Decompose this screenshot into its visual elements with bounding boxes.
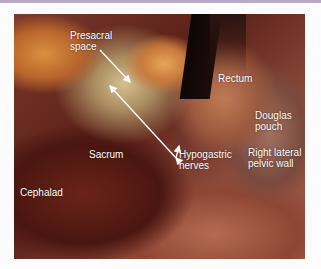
label-cephalad: Cephalad (20, 187, 63, 198)
label-hypogastric-nerves: Hypogastric nerves (179, 149, 232, 171)
label-douglas-pouch: Douglas pouch (255, 110, 292, 132)
label-sacrum: Sacrum (89, 149, 123, 160)
label-rectum: Rectum (218, 73, 252, 84)
double-arrow (110, 86, 176, 158)
presacral-arrow (100, 50, 130, 82)
label-presacral-space: Presacral space (70, 30, 112, 52)
label-right-lateral-pelvic-wall: Right lateral pelvic wall (248, 147, 301, 169)
annotation-arrows (0, 0, 321, 269)
